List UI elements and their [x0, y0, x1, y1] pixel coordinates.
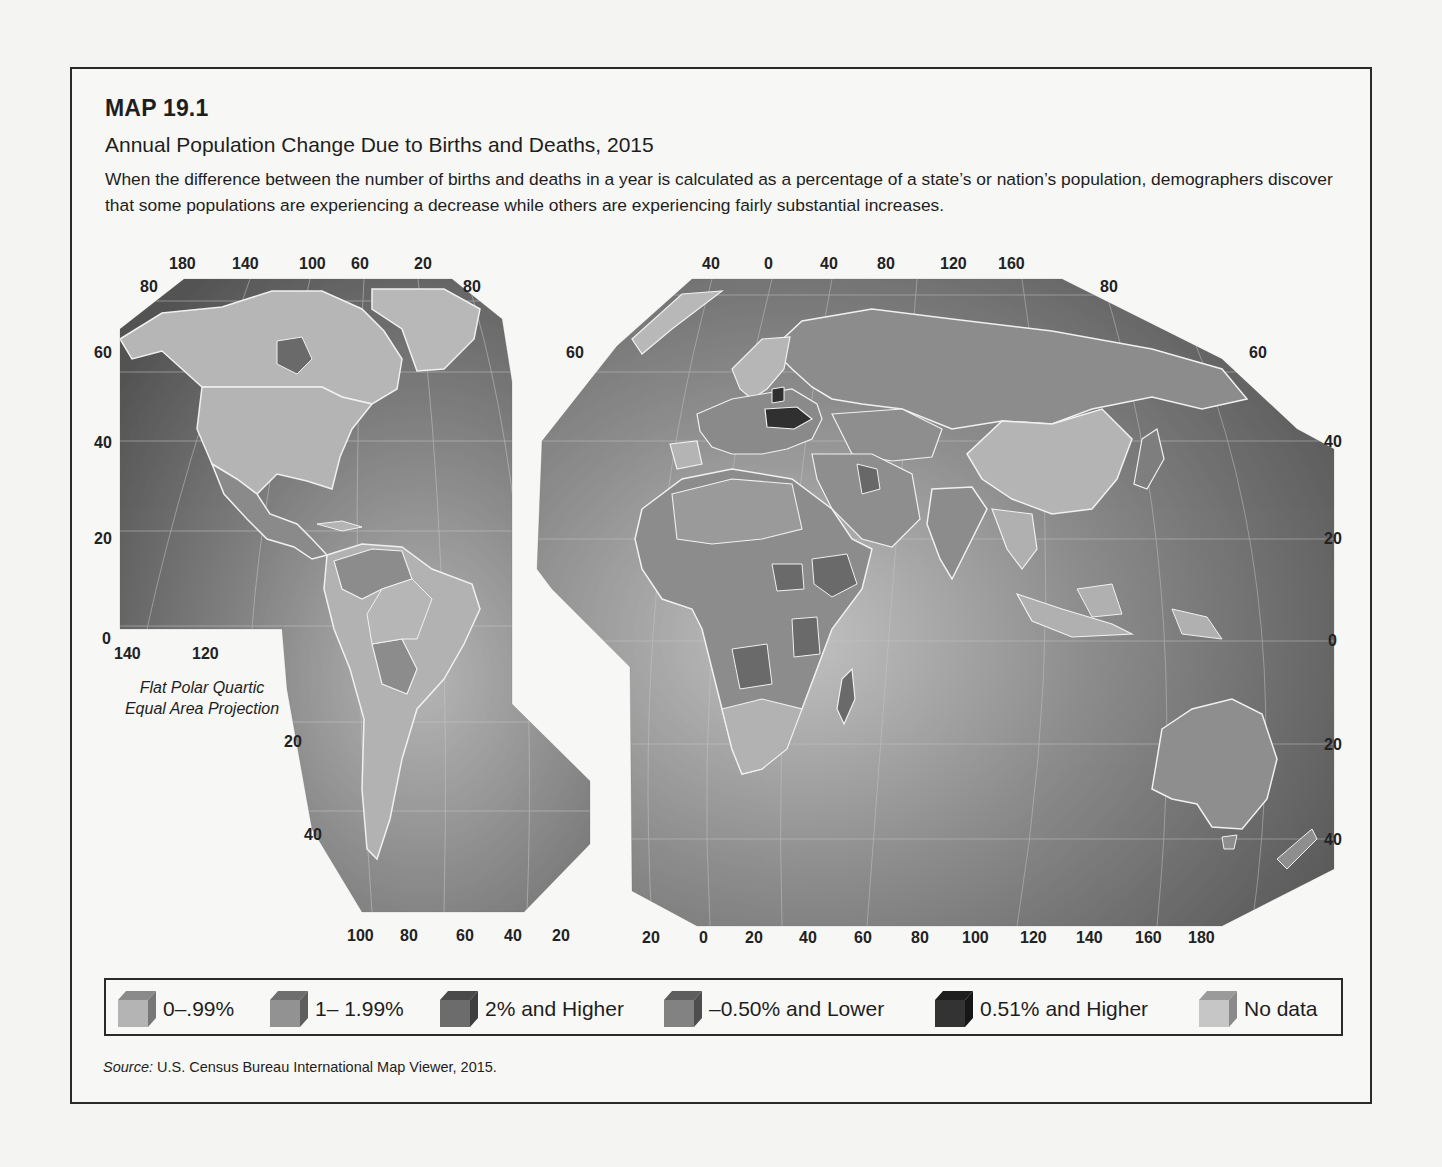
legend-item-051-higher: 0.51% and Higher: [935, 990, 1148, 1028]
tick-e-lat-40: 40: [1324, 433, 1342, 451]
tick-e-lat-0: 0: [1328, 632, 1337, 650]
map-legend: 0–.99% 1– 1.99% 2% and Higher –0.50% and…: [104, 978, 1343, 1036]
tick-lat-20-s: 20: [284, 733, 302, 751]
tick-lat-60: 60: [94, 344, 112, 362]
tick-e-lat-60: 60: [1249, 344, 1267, 362]
tick-e-lat-20: 20: [1324, 530, 1342, 548]
tick-e-lon-b-20e: 20: [745, 929, 763, 947]
tick-lat-80-left: 80: [140, 278, 158, 296]
source-text: U.S. Census Bureau International Map Vie…: [153, 1059, 497, 1075]
legend-item-1-199: 1– 1.99%: [270, 990, 404, 1028]
legend-item-0-099: 0–.99%: [118, 990, 234, 1028]
tick-lat-20: 20: [94, 530, 112, 548]
projection-note: Flat Polar Quartic Equal Area Projection: [102, 677, 302, 719]
eastern-hemisphere-panel: [532, 269, 1352, 939]
legend-item-no-data: No data: [1199, 990, 1318, 1028]
tick-e-lat-60-left: 60: [566, 344, 584, 362]
tick-e-lon-b-20w: 20: [642, 929, 660, 947]
tick-lat-80-right: 80: [463, 278, 481, 296]
tick-e-lon-b-0: 0: [699, 929, 708, 947]
tick-e-lon-40e: 40: [820, 255, 838, 273]
swatch-neg050-lower-icon: [664, 991, 702, 1027]
swatch-2-higher-icon: [440, 991, 478, 1027]
swatch-0-099-icon: [118, 991, 156, 1027]
tick-e-lon-b-100e: 100: [962, 929, 989, 947]
tick-e-lon-80e: 80: [877, 255, 895, 273]
tick-e-lat-40-s: 40: [1324, 831, 1342, 849]
tick-lon-60-bottom: 60: [456, 927, 474, 945]
tick-e-lon-b-140e: 140: [1076, 929, 1103, 947]
tick-lat-40: 40: [94, 434, 112, 452]
legend-item-2-higher: 2% and Higher: [440, 990, 624, 1028]
legend-item-neg050-lower: –0.50% and Lower: [664, 990, 884, 1028]
americas-panel: [112, 269, 612, 929]
tick-e-lon-b-120e: 120: [1020, 929, 1047, 947]
swatch-no-data-icon: [1199, 991, 1237, 1027]
swatch-1-199-icon: [270, 991, 308, 1027]
tick-lon-40-bottom: 40: [504, 927, 522, 945]
source-prefix: Source:: [103, 1059, 153, 1075]
tick-e-lon-b-160e: 160: [1135, 929, 1162, 947]
tick-lon-140: 140: [232, 255, 259, 273]
tick-e-lon-b-80e: 80: [911, 929, 929, 947]
tick-lon-140-mid: 140: [114, 645, 141, 663]
tick-lon-100: 100: [299, 255, 326, 273]
tick-e-lon-40w: 40: [702, 255, 720, 273]
swatch-051-higher-icon: [935, 991, 973, 1027]
tick-e-lon-160e: 160: [998, 255, 1025, 273]
tick-lon-60: 60: [351, 255, 369, 273]
tick-lon-80-bottom: 80: [400, 927, 418, 945]
tick-e-lon-0: 0: [764, 255, 773, 273]
tick-e-lat-80: 80: [1100, 278, 1118, 296]
tick-lon-180: 180: [169, 255, 196, 273]
world-map: [72, 69, 1374, 1106]
tick-e-lon-b-40e: 40: [799, 929, 817, 947]
tick-lon-120-mid: 120: [192, 645, 219, 663]
tick-lon-20: 20: [414, 255, 432, 273]
tick-lat-40-s: 40: [304, 826, 322, 844]
tick-e-lat-20-s: 20: [1324, 736, 1342, 754]
map-figure: MAP 19.1 Annual Population Change Due to…: [70, 67, 1372, 1104]
tick-lat-0: 0: [102, 630, 111, 648]
tick-e-lon-120e: 120: [940, 255, 967, 273]
tick-e-lon-b-180: 180: [1188, 929, 1215, 947]
tick-lon-20-bottom: 20: [552, 927, 570, 945]
tick-lon-100-bottom: 100: [347, 927, 374, 945]
source-note: Source: U.S. Census Bureau International…: [103, 1059, 497, 1075]
tick-e-lon-b-60e: 60: [854, 929, 872, 947]
